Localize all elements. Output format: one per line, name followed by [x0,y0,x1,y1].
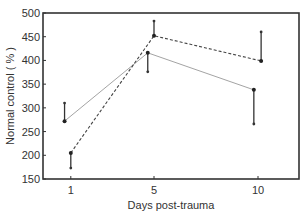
data-point [146,51,150,55]
data-point [69,151,73,155]
y-axis-title: Normal control ( % ) [4,47,16,145]
line-chart: 150200250300350400450500 1510 Normal con… [0,0,308,216]
x-axis-title: Days post-trauma [128,199,216,211]
data-point [63,119,67,123]
y-tick-label: 250 [22,126,40,138]
x-tick-label: 1 [68,184,74,196]
y-tick-label: 350 [22,78,40,90]
series-line-solid [65,53,254,121]
y-tick-label: 500 [22,7,40,19]
y-tick-label: 400 [22,54,40,66]
x-tick-label: 10 [252,184,264,196]
y-tick-label: 450 [22,31,40,43]
series-line-dashed [71,36,261,153]
data-point [259,59,263,63]
y-tick-label: 200 [22,149,40,161]
y-tick-label: 150 [22,173,40,185]
data-series [63,20,264,170]
data-point [252,88,256,92]
x-tick-label: 5 [151,184,157,196]
data-point [152,34,156,38]
y-tick-label: 300 [22,102,40,114]
